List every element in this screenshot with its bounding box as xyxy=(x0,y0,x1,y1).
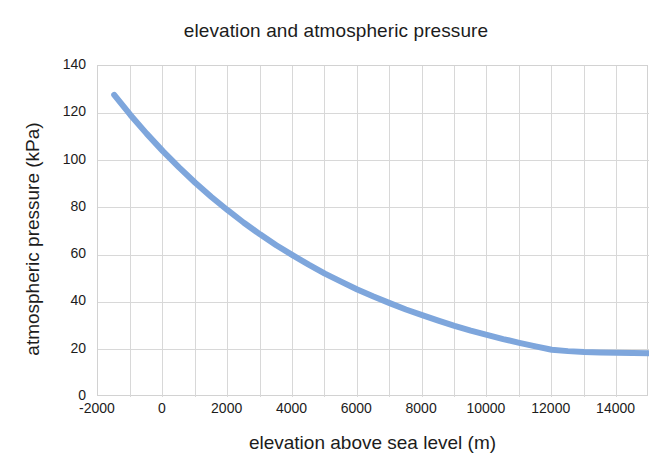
x-tick-label: 2000 xyxy=(211,400,242,416)
x-tick-label-group: -200002000400060008000100001200014000 xyxy=(0,0,672,471)
x-tick-label: 8000 xyxy=(406,400,437,416)
x-tick-label: -2000 xyxy=(79,400,115,416)
x-tick-label: 0 xyxy=(158,400,166,416)
x-tick-label: 14000 xyxy=(596,400,635,416)
x-tick-label: 6000 xyxy=(341,400,372,416)
x-tick-label: 12000 xyxy=(531,400,570,416)
x-tick-label: 10000 xyxy=(466,400,505,416)
chart-container: elevation and atmospheric pressure atmos… xyxy=(0,0,672,471)
x-tick-label: 4000 xyxy=(276,400,307,416)
